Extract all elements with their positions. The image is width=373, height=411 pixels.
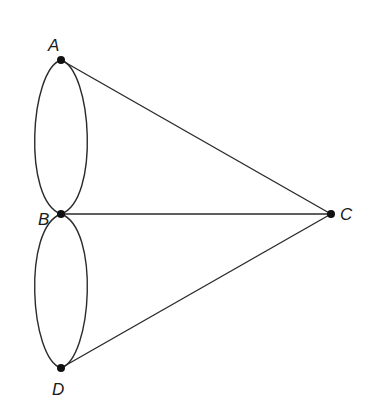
graph-diagram: A B C D [0,0,373,411]
label-c: C [340,205,353,224]
edge-a-c [61,60,331,214]
label-b: B [38,210,49,229]
edge-a-b-right [61,60,87,214]
edge-b-d-right [61,214,87,368]
node-b [57,210,65,218]
edge-d-c [61,214,331,368]
label-d: D [52,380,64,399]
node-d [57,364,65,372]
node-a [57,56,65,64]
edge-b-d-left [35,214,61,368]
node-c [327,210,335,218]
edge-a-b-left [35,60,61,214]
label-a: A [47,36,59,55]
